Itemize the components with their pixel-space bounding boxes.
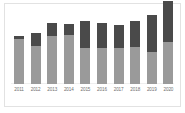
bar-segment-lower-2011 xyxy=(14,39,24,84)
x-axis-tick-labels: 2011201220132014201520162017201820192020 xyxy=(5,86,180,98)
bar-segment-lower-2014 xyxy=(64,35,74,84)
chart-frame: 2011201220132014201520162017201820192020 xyxy=(4,3,181,107)
bar-segment-lower-2015 xyxy=(80,48,90,84)
bar-segment-upper-2015 xyxy=(80,21,90,48)
bar-segment-upper-2014 xyxy=(64,24,74,35)
bar-segment-upper-2020 xyxy=(163,1,173,42)
bar-2011 xyxy=(14,36,24,84)
plot-area: 2011201220132014201520162017201820192020 xyxy=(5,4,180,106)
stacked-bar-chart: 2011201220132014201520162017201820192020 xyxy=(0,0,185,113)
bar-2014 xyxy=(64,24,74,84)
bar-2015 xyxy=(80,21,90,84)
bar-2012 xyxy=(31,33,41,84)
bar-segment-upper-2016 xyxy=(97,23,107,48)
bar-2017 xyxy=(114,25,124,84)
bar-2016 xyxy=(97,23,107,84)
bar-segment-lower-2012 xyxy=(31,46,41,84)
bar-2018 xyxy=(130,21,140,84)
bar-2013 xyxy=(47,23,57,84)
bar-segment-lower-2019 xyxy=(147,52,157,84)
bar-segment-upper-2017 xyxy=(114,25,124,48)
bar-2019 xyxy=(147,15,157,84)
bar-segment-lower-2016 xyxy=(97,48,107,84)
bar-segment-lower-2013 xyxy=(47,36,57,84)
bar-segment-upper-2013 xyxy=(47,23,57,36)
bar-segment-upper-2019 xyxy=(147,15,157,52)
bar-2020 xyxy=(163,1,173,84)
bar-segment-lower-2017 xyxy=(114,48,124,84)
x-tick-label-2020: 2020 xyxy=(157,86,179,93)
bar-segment-upper-2018 xyxy=(130,21,140,46)
bar-segment-lower-2018 xyxy=(130,47,140,84)
bar-segment-upper-2012 xyxy=(31,33,41,46)
bar-segment-lower-2020 xyxy=(163,42,173,84)
